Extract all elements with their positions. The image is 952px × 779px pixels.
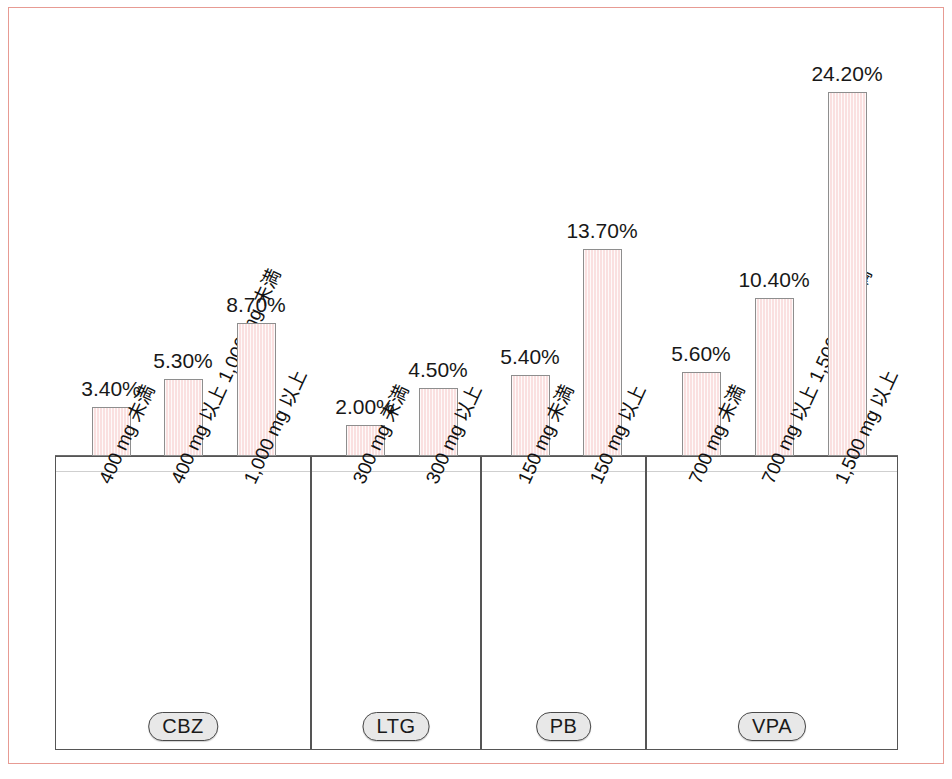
panel-inner-gridline — [482, 471, 645, 472]
group-label-vpa: VPA — [738, 712, 806, 741]
bar-value-cbz-3: 8.70% — [226, 293, 286, 317]
group-label-pb: PB — [536, 712, 592, 741]
bar-value-vpa-1: 5.60% — [671, 342, 731, 366]
bar-value-vpa-3: 24.20% — [811, 62, 882, 86]
panel-cbz: CBZ — [55, 456, 311, 750]
bar-value-ltg-2: 4.50% — [408, 358, 468, 382]
panel-inner-gridline — [312, 471, 480, 472]
bar-value-cbz-2: 5.30% — [153, 349, 213, 373]
plot-area: CBZ LTG PB VPA 3.40% 400 mg 未満 5.30% 400… — [0, 0, 952, 779]
panel-ltg: LTG — [311, 456, 481, 750]
bar-value-pb-2: 13.70% — [566, 219, 637, 243]
bar-value-pb-1: 5.40% — [500, 345, 560, 369]
group-label-ltg: LTG — [363, 712, 430, 741]
bar-value-vpa-2: 10.40% — [738, 268, 809, 292]
panel-pb: PB — [481, 456, 646, 750]
group-label-cbz: CBZ — [148, 712, 218, 741]
chart-figure: CBZ LTG PB VPA 3.40% 400 mg 未満 5.30% 400… — [0, 0, 952, 779]
panel-vpa: VPA — [646, 456, 898, 750]
